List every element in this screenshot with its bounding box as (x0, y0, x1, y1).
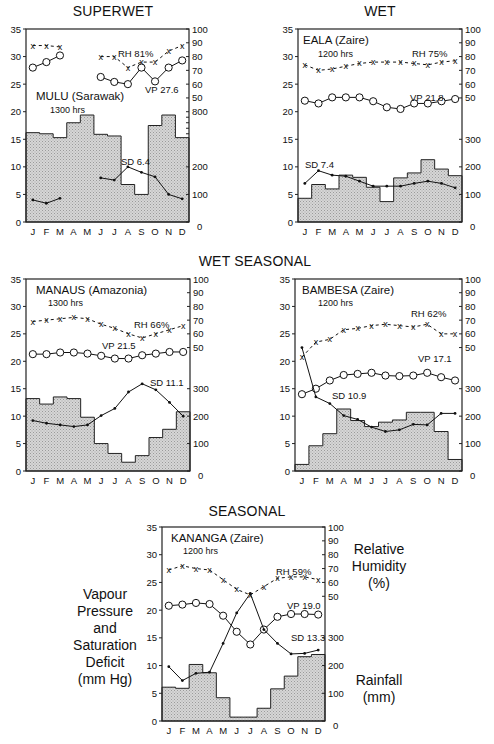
rh-marker: x (316, 65, 321, 75)
rain-axis-tick-label: 200 (192, 161, 208, 172)
vp-marker (397, 105, 404, 112)
vp-marker (29, 64, 36, 71)
rain-axis-tick-label: 0 (333, 720, 338, 731)
month-label: J (99, 475, 104, 486)
vp-marker (452, 95, 459, 102)
sd-annotation: SD 7.4 (305, 159, 334, 170)
rh-axis-tick-label: 70 (193, 315, 204, 326)
vp-marker (124, 81, 131, 88)
left-axis-tick-label: 25 (279, 328, 290, 339)
sd-marker (372, 185, 375, 188)
sd-marker (314, 396, 317, 399)
rh-marker: x (221, 575, 226, 585)
month-label: N (301, 725, 308, 736)
left-axis-tick-label: 30 (10, 301, 21, 312)
left-axis-tick-label: 35 (10, 274, 21, 285)
rh-marker: x (207, 565, 212, 575)
vp-line (33, 352, 183, 359)
rh-axis-tick-label: 100 (193, 274, 209, 285)
rh-marker: x (31, 317, 36, 327)
rh-marker: x (112, 52, 117, 62)
month-label: N (166, 475, 173, 486)
vp-line (302, 373, 455, 394)
sd-marker (342, 414, 345, 417)
rh-marker: x (425, 319, 430, 329)
rh-marker: x (58, 42, 63, 52)
vp-annotation: VP 19.0 (287, 600, 321, 611)
rh-marker: x (113, 323, 118, 333)
rain-axis-tick-label: 200 (328, 660, 344, 671)
month-label: J (383, 475, 388, 486)
rh-marker: x (180, 561, 185, 571)
month-label: F (44, 475, 50, 486)
rh-axis-tick-label: 80 (328, 549, 339, 560)
rh-marker: x (126, 329, 131, 339)
month-label: D (315, 725, 322, 736)
vp-marker (354, 370, 361, 377)
month-label: A (206, 725, 213, 736)
rain-axis-tick-label: 0 (470, 221, 475, 232)
sd-marker (154, 175, 157, 178)
month-label: M (354, 475, 362, 486)
rh-marker: x (154, 329, 159, 339)
vp-marker (165, 64, 172, 71)
sd-annotation: SD 10.9 (332, 390, 366, 401)
vp-marker (70, 349, 77, 356)
sd-marker (167, 665, 170, 668)
sd-marker (370, 426, 373, 429)
rh-marker: x (303, 60, 308, 70)
sd-marker (235, 612, 238, 615)
vp-marker (396, 372, 403, 379)
vp-marker (180, 348, 187, 355)
rh-axis-tick-label: 70 (192, 65, 203, 76)
month-label: D (179, 226, 186, 237)
rain-axis-tick-label: 0 (198, 470, 203, 481)
rh-axis-tick-label: 70 (465, 315, 476, 326)
left-axis-tick-label: 30 (10, 51, 21, 62)
sd-marker (154, 388, 157, 391)
rh-axis-tick-label: 60 (465, 328, 476, 339)
rh-marker: x (412, 58, 417, 68)
left-axis-tick-label: 35 (146, 522, 157, 533)
month-label: M (192, 725, 200, 736)
month-label: J (369, 475, 374, 486)
vp-marker (301, 97, 308, 104)
rh-marker: x (371, 57, 376, 67)
rh-axis-tick-label: 60 (328, 577, 339, 588)
sd-marker (181, 197, 184, 200)
station-title: EALA (Zaire) (303, 34, 369, 46)
rh-marker: x (126, 63, 131, 73)
sd-marker (181, 679, 184, 682)
rh-axis-tick-label: 100 (192, 24, 208, 35)
rh-axis-tick-label: 100 (465, 24, 481, 35)
vp-marker (382, 372, 389, 379)
rh-axis-tick-label: 60 (465, 79, 476, 90)
left-axis-tick-label: 5 (152, 688, 157, 699)
chart-kananga: 0510152025303550607080901000100200300JFM… (146, 522, 343, 737)
rainfall-bars (26, 397, 190, 471)
left-axis-tick-label: 15 (279, 383, 290, 394)
sd-marker (100, 414, 103, 417)
left-axis-tick-label: 25 (10, 328, 21, 339)
rh-marker: x (453, 329, 458, 339)
rh-marker: x (328, 334, 333, 344)
rain-axis-tick-label: 100 (328, 688, 344, 699)
rh-marker: x (314, 337, 319, 347)
month-label: J (234, 725, 239, 736)
month-label: A (125, 475, 132, 486)
rh-axis-tick-label: 100 (328, 522, 344, 533)
rh-marker: x (194, 564, 199, 574)
station-title: MULU (Sarawak) (36, 90, 124, 102)
rh-axis-tick-label: 80 (192, 51, 203, 62)
rh-marker: x (44, 41, 49, 51)
rh-marker: x (330, 64, 335, 74)
sd-marker (31, 419, 34, 422)
rh-axis-tick-label: 60 (192, 79, 203, 90)
month-label: O (287, 725, 294, 736)
month-label: F (179, 725, 185, 736)
vp-marker (340, 371, 347, 378)
rh-marker: x (153, 57, 158, 67)
month-label: O (424, 475, 431, 486)
vp-marker (301, 610, 308, 617)
left-axis-tick-label: 0 (288, 217, 293, 228)
